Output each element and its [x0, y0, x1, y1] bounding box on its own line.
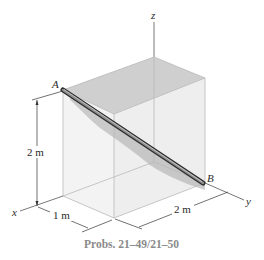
point-a-label: A: [51, 78, 59, 90]
width-dim-extension-left: [115, 219, 142, 229]
z-axis-label: z: [150, 9, 156, 21]
height-dim-arrow-top: [36, 100, 39, 105]
figure-caption: Probs. 21–49/21–50: [84, 238, 179, 250]
diagram-canvas: z A B x y 2 m 1 m 2 m Probs. 21–49/21–50: [0, 0, 264, 260]
depth-dimension-label: 1 m: [53, 209, 70, 221]
point-b-label: B: [207, 172, 214, 184]
depth-dim-extension: [82, 220, 112, 232]
width-dimension-label: 2 m: [174, 203, 191, 215]
x-axis-label: x: [11, 206, 17, 218]
height-dimension-label: 2 m: [27, 146, 44, 158]
y-axis: [205, 183, 244, 200]
y-axis-label: y: [245, 195, 251, 207]
height-dim-extension-top: [32, 91, 63, 100]
